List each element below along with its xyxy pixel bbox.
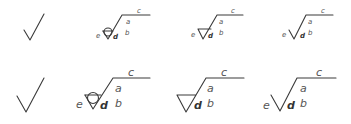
symbol-bottom-2-circle: e d c a b <box>76 66 150 112</box>
symbol-top-1-basic-check <box>24 14 44 40</box>
label-d: d <box>113 33 119 41</box>
label-e: e <box>282 31 286 39</box>
label-c: c <box>321 7 325 15</box>
symbol-bottom-3-triangle: d c a b <box>177 66 244 112</box>
label-c: c <box>231 7 235 15</box>
circle-icon <box>104 28 112 36</box>
label-d: d <box>100 99 108 112</box>
symbol-top-3-triangle: e d c a b <box>191 7 243 40</box>
label-b: b <box>207 97 214 110</box>
circle-icon <box>88 93 99 104</box>
check-icon <box>17 78 44 112</box>
symbol-top-2-circle: e d c a b <box>96 7 150 41</box>
label-b: b <box>300 97 307 110</box>
label-c: c <box>316 66 322 79</box>
symbol-bottom-4-basic-extended: e d c a b <box>263 66 336 112</box>
label-b: b <box>125 29 130 37</box>
label-d: d <box>194 99 202 112</box>
label-a: a <box>219 18 223 26</box>
label-c: c <box>128 66 134 79</box>
label-b: b <box>219 29 224 37</box>
label-a: a <box>115 82 122 95</box>
symbol-top-4-basic-extended: e d c a b <box>282 7 333 40</box>
label-d: d <box>208 32 214 40</box>
label-b: b <box>115 97 122 110</box>
check-icon <box>24 14 44 40</box>
label-e: e <box>76 98 83 111</box>
label-c: c <box>137 7 141 15</box>
surface-symbols-diagram: e d c a b e d c a b e d c a b e d c a b … <box>0 0 351 124</box>
label-e: e <box>191 31 195 39</box>
symbol-bottom-1-basic-check <box>17 78 44 112</box>
label-a: a <box>126 18 130 26</box>
label-b: b <box>308 29 313 37</box>
label-d: d <box>300 32 306 40</box>
label-d: d <box>287 99 295 112</box>
label-e: e <box>263 99 270 112</box>
label-e: e <box>96 32 100 40</box>
label-a: a <box>308 18 312 26</box>
label-c: c <box>221 66 227 79</box>
label-a: a <box>207 82 214 95</box>
label-a: a <box>300 82 307 95</box>
